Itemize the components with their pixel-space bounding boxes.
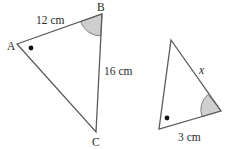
triangle-abc: A B C 12 cm 16 cm <box>7 1 132 148</box>
triangle-small-outline <box>159 40 221 129</box>
vertex-a-label: A <box>7 40 16 52</box>
side-bottom-label: 3 cm <box>178 131 201 143</box>
vertex-c-label: C <box>92 136 100 148</box>
similar-triangles-diagram: A B C 12 cm 16 cm x 3 cm <box>0 0 228 149</box>
side-bc-label: 16 cm <box>104 65 132 77</box>
vertex-b-label: B <box>97 1 105 13</box>
side-ab-label: 12 cm <box>36 14 64 26</box>
side-x-label: x <box>198 64 205 76</box>
angle-bottom-left-dot <box>165 116 170 121</box>
angle-a-dot <box>29 46 34 51</box>
triangle-small: x 3 cm <box>159 40 221 143</box>
